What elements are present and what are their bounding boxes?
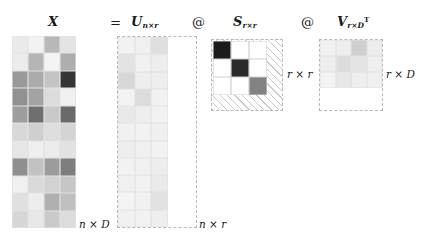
matrix-u-cell: [151, 158, 168, 175]
matrix-x-cell: [60, 193, 76, 210]
matrix-s-cell: [231, 41, 249, 59]
matrix-u-cell: [135, 141, 152, 158]
matrix-x-cell: [44, 211, 60, 228]
matrix-u-cell: [135, 89, 152, 106]
dimension-label-u: n × r: [199, 218, 226, 230]
matrix-v-cell: [351, 56, 367, 72]
matrix-x-cell: [28, 141, 44, 158]
matrix-u-cell: [151, 72, 168, 89]
matrix-x-cell: [12, 71, 28, 88]
matrix-u-cell: [135, 158, 152, 175]
matrix-u-cell: [151, 37, 168, 54]
matrix-x-cell: [44, 53, 60, 70]
matrix-u-cell: [151, 54, 168, 71]
matrix-x-cell: [28, 106, 44, 123]
matrix-x-cell: [28, 123, 44, 140]
matrix-u-cell: [151, 210, 168, 227]
matrix-x-cell: [12, 176, 28, 193]
matrix-x-cell: [12, 123, 28, 140]
matrix-x-cell: [44, 158, 60, 175]
matrix-u-heatmap: [118, 37, 168, 227]
matrix-u-cell: [118, 210, 135, 227]
matrix-u-cell: [118, 158, 135, 175]
matrix-s-cell: [249, 59, 267, 77]
matrix-s-cell: [231, 77, 249, 95]
dimension-label-s: r × r: [287, 68, 313, 80]
matrix-x-cell: [12, 106, 28, 123]
matrix-x-cell: [12, 53, 28, 70]
equals-sign: =: [110, 15, 121, 30]
matrix-x-cell: [12, 193, 28, 210]
matrix-x-cell: [28, 158, 44, 175]
matrix-u-cell: [118, 123, 135, 140]
matrix-v-cell: [336, 40, 352, 56]
matrix-s-cell: [213, 59, 231, 77]
matrix-x-cell: [60, 123, 76, 140]
matrix-x-cell: [12, 88, 28, 105]
matrix-v-cell: [320, 56, 336, 72]
matrix-x-cell: [44, 71, 60, 88]
matrix-u-cell: [118, 192, 135, 209]
matrix-u-cell: [151, 106, 168, 123]
matrix-x-cell: [60, 176, 76, 193]
matrix-x-cell: [28, 211, 44, 228]
matrix-v-cell: [336, 72, 352, 88]
matrix-s-diagonal: [213, 41, 267, 95]
matrix-u-cell: [135, 37, 152, 54]
matrix-x-cell: [44, 193, 60, 210]
matrix-u-cell: [151, 89, 168, 106]
matrix-label-x: X: [48, 14, 58, 29]
matrix-u-cell: [118, 72, 135, 89]
matrix-x-cell: [60, 141, 76, 158]
matrix-v-cell: [320, 40, 336, 56]
matrix-u-cell: [118, 89, 135, 106]
matrix-label-u: Un×r: [131, 14, 158, 30]
matrix-u-cell: [118, 54, 135, 71]
matrix-v-cell: [367, 72, 383, 88]
matrix-x-cell: [60, 36, 76, 53]
matrix-v-cell: [367, 40, 383, 56]
matrix-u-cell: [135, 210, 152, 227]
matrix-u-cell: [151, 123, 168, 140]
dimension-label-v: r × D: [386, 68, 415, 80]
matrix-x-cell: [12, 36, 28, 53]
matrix-v-cell: [336, 56, 352, 72]
matrix-x-cell: [28, 176, 44, 193]
matrix-x-cell: [28, 88, 44, 105]
matrix-v-cell: [367, 56, 383, 72]
matrix-u-cell: [118, 141, 135, 158]
matrix-v-cell: [351, 72, 367, 88]
matrix-u-cell: [135, 123, 152, 140]
matrix-u-cell: [135, 175, 152, 192]
matrix-x-cell: [60, 211, 76, 228]
matrix-x-cell: [28, 53, 44, 70]
matrix-x-cell: [44, 88, 60, 105]
matrix-x-cell: [12, 211, 28, 228]
matrix-u-cell: [135, 106, 152, 123]
matrix-u-cell: [118, 175, 135, 192]
matrix-v-heatmap: [320, 40, 382, 88]
matrix-u-cell: [151, 141, 168, 158]
matrix-u-cell: [118, 106, 135, 123]
matrix-x-cell: [28, 71, 44, 88]
matrix-x-cell: [12, 158, 28, 175]
matrix-x-cell: [60, 158, 76, 175]
matrix-u-cell: [151, 192, 168, 209]
matrix-u-cell: [151, 175, 168, 192]
matrix-x-cell: [28, 36, 44, 53]
matrix-x-cell: [12, 141, 28, 158]
at-operator-1: @: [192, 15, 205, 30]
matrix-v-cell: [320, 72, 336, 88]
matrix-label-s: Sr×r: [233, 14, 257, 30]
matrix-label-v: Vr×DT: [337, 14, 369, 30]
matrix-s-cell: [249, 77, 267, 95]
matrix-s-cell: [213, 41, 231, 59]
matrix-x-cell: [60, 71, 76, 88]
figure-canvas: X = Un×r @ Sr×r @ Vr×DT n × D n × r r × …: [0, 0, 422, 249]
matrix-u-cell: [135, 72, 152, 89]
matrix-u-cell: [135, 54, 152, 71]
matrix-x-cell: [60, 53, 76, 70]
matrix-s-cell: [231, 59, 249, 77]
at-operator-2: @: [301, 15, 314, 30]
matrix-x-cell: [28, 193, 44, 210]
